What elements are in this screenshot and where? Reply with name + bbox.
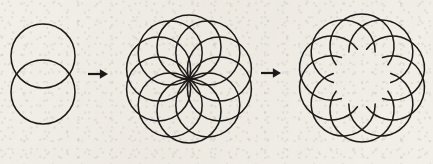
rosette-circle-4: [187, 57, 251, 121]
rosette-circle-6: [157, 79, 221, 143]
rosette-circle-5: [176, 73, 240, 137]
stage-pinwheel-rosette: [300, 14, 425, 142]
stage-full-rosette: [127, 15, 252, 143]
rosette-circle-3: [187, 37, 251, 101]
pinwheel-arc-2: [349, 20, 413, 82]
pinwheel-arc-7: [311, 73, 375, 135]
construction-circle-2: [11, 60, 75, 124]
transform-arrow-1: [88, 69, 108, 78]
construction-circle-1: [11, 24, 75, 88]
arrow-head-icon: [100, 69, 108, 78]
transform-arrow-2: [261, 68, 281, 77]
rosette-circle-7: [138, 73, 202, 137]
rosette-circle-1: [157, 15, 221, 79]
pinwheel-arc-5: [349, 73, 413, 135]
rosette-circle-2: [176, 21, 240, 85]
stage-two-circles: [11, 24, 75, 124]
geometric-construction-figure: [0, 0, 433, 164]
rosette-circle-8: [127, 57, 191, 121]
pinwheel-arc-10: [311, 20, 375, 82]
arrow-head-icon: [273, 68, 281, 77]
rosette-construction-diagram: [0, 0, 433, 164]
rosette-circle-10: [138, 21, 202, 85]
rosette-circle-9: [127, 37, 191, 101]
